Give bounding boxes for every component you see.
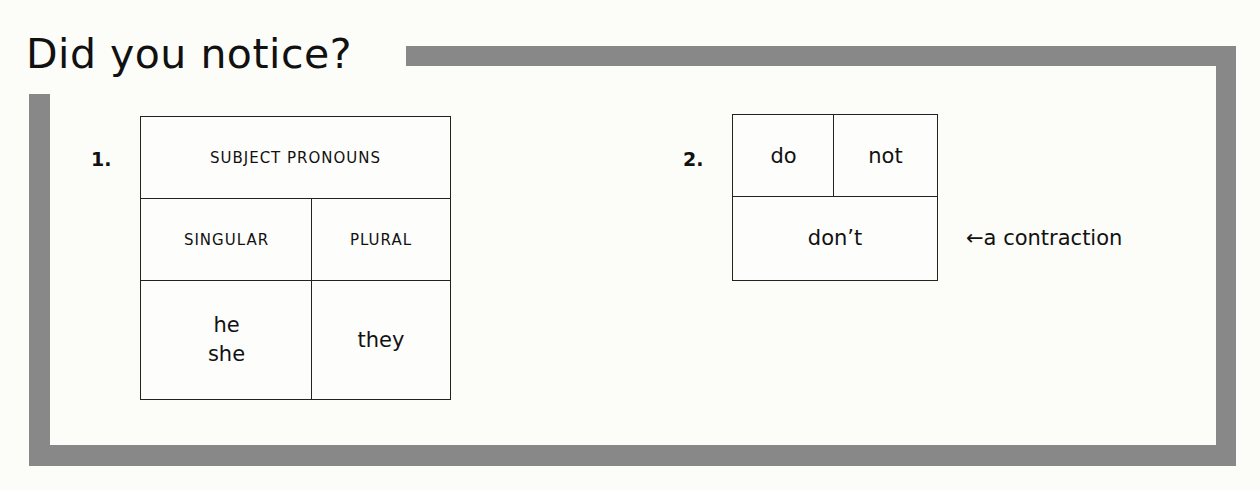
plural-values-cell: they xyxy=(311,280,451,400)
column-header-plural: PLURAL xyxy=(311,198,451,282)
word-do: do xyxy=(770,142,796,171)
singular-label: SINGULAR xyxy=(184,231,269,249)
item-number-2: 2. xyxy=(683,148,703,170)
table-header-subject-pronouns: SUBJECT PRONOUNS xyxy=(140,116,451,200)
frame-right-border xyxy=(1216,46,1236,466)
frame-bottom-border xyxy=(29,445,1236,466)
word-dont: don’t xyxy=(808,224,862,253)
item-number-1: 1. xyxy=(91,148,111,170)
contraction-result-cell: don’t xyxy=(732,196,938,281)
pronoun-she: she xyxy=(208,340,245,369)
pronoun-they: they xyxy=(358,326,405,355)
frame-left-border xyxy=(29,94,50,466)
pronoun-he: he xyxy=(208,311,245,340)
word-do-cell: do xyxy=(732,114,835,198)
column-header-singular: SINGULAR xyxy=(140,198,313,282)
plural-label: PLURAL xyxy=(350,231,412,249)
header-label: SUBJECT PRONOUNS xyxy=(210,149,381,167)
word-not-cell: not xyxy=(833,114,938,198)
frame-top-border xyxy=(406,46,1236,66)
word-not: not xyxy=(868,142,902,171)
contraction-annotation: ←a contraction xyxy=(966,226,1122,250)
singular-values-cell: he she xyxy=(140,280,313,400)
page-title: Did you notice? xyxy=(26,30,352,78)
